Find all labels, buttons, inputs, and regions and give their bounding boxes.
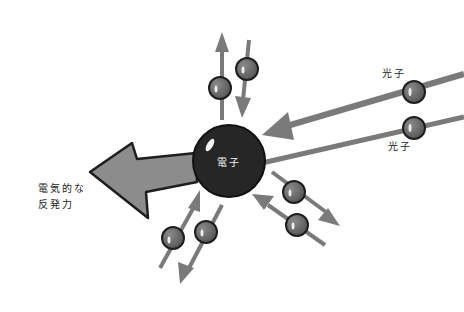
- photon-beam-upper: [262, 74, 464, 140]
- virtual-particle: [283, 181, 305, 203]
- arrow-up-right-icon: [188, 190, 200, 212]
- arrow-down-icon: [235, 96, 251, 118]
- photon-label-lower: 光子: [388, 140, 412, 154]
- photon-label-upper: 光子: [382, 67, 406, 81]
- virtual-particle: [236, 58, 258, 80]
- electron-label: 電子: [217, 154, 241, 169]
- repulsion-label-line1: 電気的な: [38, 182, 86, 196]
- photon-particle: [403, 81, 425, 103]
- photon-particle: [403, 117, 425, 139]
- virtual-particle: [209, 77, 231, 99]
- virtual-particle: [162, 227, 184, 249]
- arrow-up-icon: [215, 32, 229, 52]
- virtual-particle: [286, 214, 308, 236]
- repulsion-force-arrow: [90, 143, 197, 218]
- repulsion-label-line2: 反発力: [38, 198, 74, 212]
- virtual-particle: [195, 221, 217, 243]
- arrow-head-icon: [262, 112, 294, 140]
